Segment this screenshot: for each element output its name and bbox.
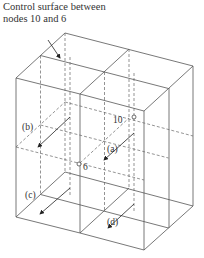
label-b: (b) (22, 122, 33, 133)
node-10-marker (132, 115, 136, 119)
node-6-marker (77, 162, 81, 166)
label-a: (a) (107, 144, 118, 155)
label-c: (c) (25, 190, 36, 201)
arrow-b (38, 117, 70, 147)
control-volume-diagram: 10 6 (a) (b) (c) (d) (0, 0, 204, 258)
flux-arrows (38, 40, 134, 228)
node-6-label: 6 (83, 162, 88, 172)
label-d: (d) (107, 217, 118, 228)
node-10-label: 10 (113, 115, 123, 125)
box-hidden-edges (16, 33, 193, 212)
